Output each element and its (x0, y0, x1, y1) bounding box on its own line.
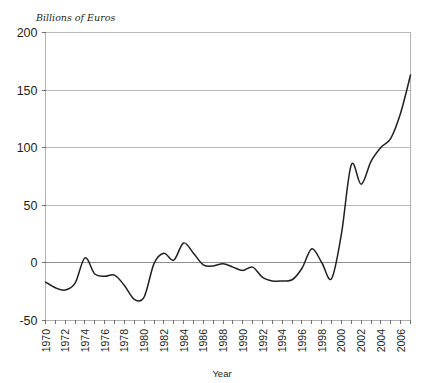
x-axis-ticks (46, 320, 411, 324)
y-tick-label: 50 (24, 199, 38, 213)
data-series-line (46, 75, 411, 301)
x-tick-label: 1970 (40, 329, 52, 353)
x-axis-title: Year (212, 368, 231, 379)
y-axis-title: Billions of Euros (35, 12, 115, 23)
y-tick-label: 100 (17, 141, 38, 155)
x-axis-tick-labels: 1970197219741976197819801982198419861988… (40, 329, 407, 353)
x-tick-label: 1986 (197, 329, 209, 353)
y-tick-label: -50 (19, 314, 37, 328)
chart-container: Billions of Euros 200150100500-50 197019… (0, 0, 421, 383)
x-tick-label: 1978 (118, 329, 130, 353)
x-tick-label: 1974 (79, 329, 91, 353)
x-tick-label: 1990 (237, 329, 249, 353)
x-tick-label: 1994 (276, 329, 288, 353)
line-chart: Billions of Euros 200150100500-50 197019… (0, 0, 421, 383)
x-tick-label: 1984 (178, 329, 190, 353)
x-tick-label: 1988 (217, 329, 229, 353)
x-tick-label: 1992 (257, 329, 269, 353)
x-tick-label: 2000 (335, 329, 347, 353)
x-tick-label: 1976 (99, 329, 111, 353)
x-tick-label: 1996 (296, 329, 308, 353)
x-tick-label: 2006 (395, 329, 407, 353)
x-tick-label: 1980 (138, 329, 150, 353)
x-tick-label: 1972 (59, 329, 71, 353)
y-tick-label: 150 (17, 84, 38, 98)
y-tick-label: 0 (31, 256, 38, 270)
x-tick-label: 2002 (355, 329, 367, 353)
x-tick-label: 1998 (316, 329, 328, 353)
y-gridlines (46, 33, 411, 263)
x-tick-label: 1982 (158, 329, 170, 353)
y-tick-label: 200 (17, 26, 38, 40)
x-tick-label: 2004 (375, 329, 387, 353)
y-axis-ticks: 200150100500-50 (17, 26, 46, 328)
